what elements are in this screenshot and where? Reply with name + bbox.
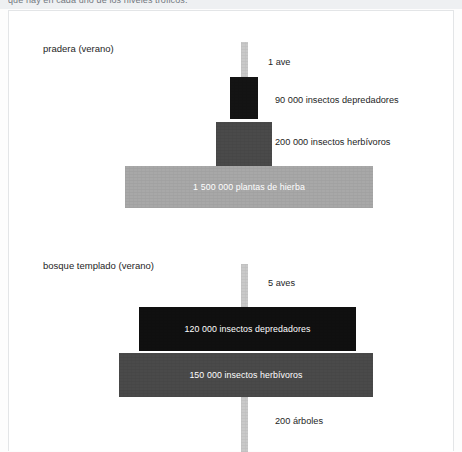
- figure-frame: pradera (verano) 1 ave 90 000 insectos d…: [8, 10, 454, 451]
- bar-grassland-herbivores: [216, 122, 272, 166]
- label-grassland-birds: 1 ave: [268, 57, 290, 67]
- running-text-clipped: que hay en cada uno de los niveles trófi…: [8, 0, 188, 5]
- bar-texture-overlay: [230, 77, 258, 119]
- panel-title-grassland: pradera (verano): [43, 43, 114, 54]
- bar-forest-predators: 120 000 insectos depredadores: [139, 307, 356, 351]
- bar-forest-birds: [241, 264, 248, 307]
- bar-grassland-plants: 1 500 000 plantas de hierba: [125, 166, 373, 208]
- bar-texture-overlay: [216, 122, 272, 166]
- bar-label-forest-predators: 120 000 insectos depredadores: [139, 324, 356, 334]
- label-forest-birds: 5 aves: [268, 278, 295, 288]
- bar-grassland-predators: [230, 77, 258, 119]
- panel-title-forest: bosque templado (verano): [43, 260, 154, 271]
- label-forest-trees: 200 árboles: [275, 416, 323, 426]
- page-running-text-strip: que hay en cada uno de los niveles trófi…: [0, 0, 462, 9]
- figure-page: que hay en cada uno de los niveles trófi…: [0, 0, 462, 452]
- bar-label-grassland-plants: 1 500 000 plantas de hierba: [125, 182, 373, 192]
- bar-forest-herbivores: 150 000 insectos herbívoros: [119, 353, 373, 397]
- bar-texture-overlay: [241, 264, 248, 307]
- bar-texture-overlay: [241, 397, 248, 452]
- label-grassland-predators: 90 000 insectos depredadores: [275, 95, 399, 105]
- label-grassland-herbivores: 200 000 insectos herbívoros: [275, 137, 390, 147]
- bar-label-forest-herbivores: 150 000 insectos herbívoros: [119, 370, 373, 380]
- bar-forest-trees: [241, 397, 248, 452]
